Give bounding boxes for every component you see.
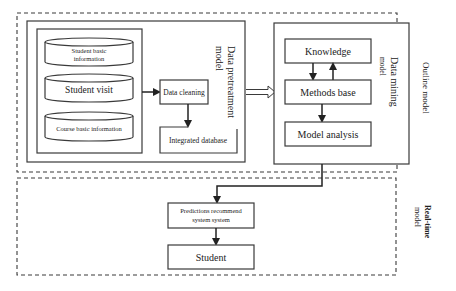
data-cleaning-label: Data cleaning <box>163 88 205 97</box>
database-cylinder-course-basic-information: Course basic information <box>45 112 133 141</box>
realtime-label-line2: model <box>413 207 422 228</box>
integrated-database-label: Integrated database <box>169 136 228 145</box>
realtime-label-line1: Real-time <box>423 205 432 239</box>
model-analysis-label: Model analysis <box>298 129 359 140</box>
database-cylinder-student-basic-information: Student basic information <box>45 38 133 66</box>
data-pretreatment-label-line2: model <box>214 46 225 71</box>
predictions-label-line1: Predictions recommend <box>180 207 242 214</box>
cylinder-2-label: Student visit <box>65 85 113 95</box>
data-mining-label-line1: Data mining <box>389 57 400 107</box>
knowledge-label: Knowledge <box>305 46 352 57</box>
outline-model-label: Outline model <box>421 62 431 114</box>
hollow-arrow-pretreatment-to-mining <box>246 86 275 98</box>
methods-base-label: Methods base <box>300 87 356 98</box>
data-pretreatment-label-line1: Data pretreatment <box>226 46 237 118</box>
database-cylinder-student-visit: Student visit <box>45 74 133 102</box>
data-mining-label-line2: model <box>378 57 387 76</box>
student-label: Student <box>196 252 227 263</box>
cylinder-1-label-line2: information <box>74 55 105 62</box>
cylinder-1-label-line1: Student basic <box>72 47 107 54</box>
arrow-mining-to-predictions <box>217 164 322 202</box>
system-architecture-diagram: Outline model Data pretreatment model St… <box>0 0 456 291</box>
cylinder-3-label: Course basic information <box>56 125 122 132</box>
predictions-label-line2: system system <box>192 216 230 223</box>
